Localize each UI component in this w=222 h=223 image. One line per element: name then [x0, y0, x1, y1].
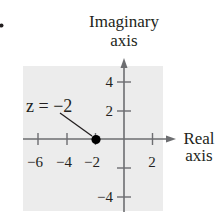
y-tick-label-minus-4: −4	[97, 189, 113, 205]
x-tick-label-minus-2: −2	[84, 154, 100, 170]
x-tick-label-minus-4: −4	[56, 154, 72, 170]
imaginary-axis-title-line2: axis	[110, 31, 137, 50]
point-label: z = −2	[26, 96, 72, 116]
y-tick-label-4: 4	[106, 74, 114, 90]
imaginary-axis-title-line1: Imaginary	[89, 12, 159, 31]
complex-plane-diagram: Imaginary axis Real axis z = −2 −6 −4 −2…	[0, 0, 222, 223]
real-axis-title-line2: axis	[185, 146, 212, 165]
imaginary-axis-arrow-icon	[121, 58, 128, 68]
x-tick-label-minus-6: −6	[27, 154, 43, 170]
y-tick-label-2: 2	[106, 103, 114, 119]
point-z-minus-2	[91, 135, 100, 144]
item-marker-dot	[0, 24, 4, 28]
x-tick-label-2: 2	[148, 154, 156, 170]
real-axis-arrow-icon	[166, 136, 176, 143]
